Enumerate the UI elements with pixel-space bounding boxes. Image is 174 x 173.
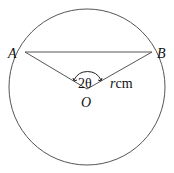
radius-label: rcm bbox=[110, 76, 133, 91]
angle-label: 2θ bbox=[78, 76, 92, 91]
circle-diagram: A B O 2θ rcm bbox=[0, 0, 174, 173]
label-b: B bbox=[157, 46, 166, 61]
label-o: O bbox=[81, 95, 91, 110]
radius-unit: cm bbox=[115, 76, 132, 91]
label-a: A bbox=[7, 46, 17, 61]
